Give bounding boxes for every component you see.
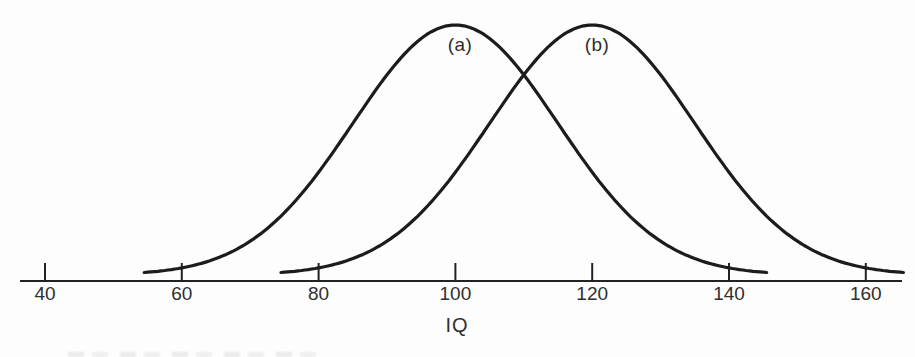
curve-a bbox=[144, 25, 766, 273]
iq-distribution-figure: (a) (b) IQ 406080100120140160 bbox=[0, 0, 915, 357]
x-tick-label-80: 80 bbox=[308, 283, 329, 305]
x-axis-label: IQ bbox=[445, 314, 468, 337]
curve-b-label: (b) bbox=[585, 34, 610, 56]
x-tick-label-160: 160 bbox=[850, 283, 882, 305]
cropped-text-remnant bbox=[68, 352, 328, 357]
x-tick-label-60: 60 bbox=[171, 283, 192, 305]
curve-b bbox=[281, 25, 903, 273]
x-tick-label-100: 100 bbox=[440, 283, 472, 305]
x-tick-label-140: 140 bbox=[713, 283, 745, 305]
curve-a-label: (a) bbox=[448, 34, 473, 56]
x-tick-label-40: 40 bbox=[34, 283, 55, 305]
x-tick-label-120: 120 bbox=[576, 283, 608, 305]
